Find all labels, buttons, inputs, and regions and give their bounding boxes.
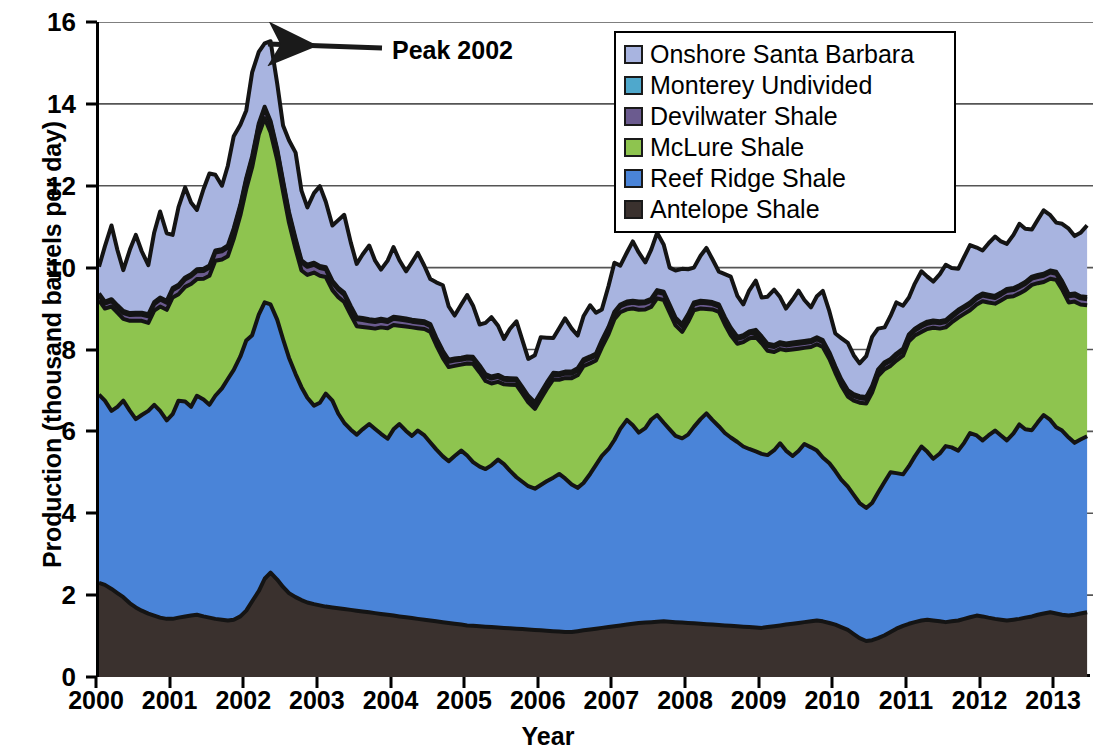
- x-tick-label: 2009: [731, 686, 787, 715]
- x-tick-label: 2002: [215, 686, 271, 715]
- y-tick-label: 4: [14, 498, 76, 529]
- legend-item[interactable]: Monterey Undivided: [624, 70, 946, 101]
- y-tick-label: 10: [14, 252, 76, 283]
- x-tick-mark: [463, 677, 466, 688]
- x-tick-mark: [904, 677, 907, 688]
- y-tick-label: 0: [14, 662, 76, 693]
- y-tick-label: 14: [14, 88, 76, 119]
- x-tick-label: 2004: [363, 686, 419, 715]
- x-tick-mark: [757, 677, 760, 688]
- x-tick-mark: [978, 677, 981, 688]
- x-tick-label: 2008: [657, 686, 713, 715]
- legend-label: Reef Ridge Shale: [650, 166, 846, 191]
- x-tick-label: 2007: [584, 686, 640, 715]
- legend-label: Devilwater Shale: [650, 104, 838, 129]
- x-tick-mark: [1052, 677, 1055, 688]
- y-tick-label: 8: [14, 334, 76, 365]
- legend-item[interactable]: Reef Ridge Shale: [624, 163, 946, 194]
- legend-label: Onshore Santa Barbara: [650, 42, 914, 67]
- x-tick-mark: [95, 677, 98, 688]
- x-tick-label: 2013: [1025, 686, 1081, 715]
- legend-label: McLure Shale: [650, 135, 804, 160]
- y-tick-label: 16: [14, 7, 76, 38]
- legend-swatch-icon: [624, 200, 643, 219]
- x-tick-label: 2001: [142, 686, 198, 715]
- x-tick-label: 2006: [510, 686, 566, 715]
- x-tick-label: 2010: [804, 686, 860, 715]
- peak-annotation-label: Peak 2002: [392, 36, 513, 65]
- x-tick-mark: [536, 677, 539, 688]
- legend-swatch-icon: [624, 138, 643, 157]
- x-tick-mark: [831, 677, 834, 688]
- legend-swatch-icon: [624, 76, 643, 95]
- x-tick-mark: [389, 677, 392, 688]
- legend-label: Antelope Shale: [650, 197, 820, 222]
- x-axis-title: Year: [0, 722, 1096, 751]
- x-tick-label: 2000: [68, 686, 124, 715]
- legend-swatch-icon: [624, 169, 643, 188]
- legend-item[interactable]: Antelope Shale: [624, 194, 946, 225]
- x-tick-label: 2012: [952, 686, 1008, 715]
- x-tick-mark: [610, 677, 613, 688]
- legend-item[interactable]: McLure Shale: [624, 132, 946, 163]
- legend-swatch-icon: [624, 45, 643, 64]
- y-tick-label: 6: [14, 416, 76, 447]
- chart-root: Production (thousand barrels per day) 02…: [0, 0, 1096, 755]
- x-tick-label: 2003: [289, 686, 345, 715]
- legend-item[interactable]: Devilwater Shale: [624, 101, 946, 132]
- y-tick-label: 2: [14, 580, 76, 611]
- x-tick-mark: [684, 677, 687, 688]
- legend-label: Monterey Undivided: [650, 73, 872, 98]
- x-tick-mark: [168, 677, 171, 688]
- x-tick-mark: [242, 677, 245, 688]
- x-tick-label: 2011: [879, 686, 933, 715]
- y-tick-label: 12: [14, 170, 76, 201]
- chart-legend: Onshore Santa BarbaraMonterey UndividedD…: [614, 31, 956, 233]
- legend-item[interactable]: Onshore Santa Barbara: [624, 39, 946, 70]
- legend-swatch-icon: [624, 107, 643, 126]
- x-tick-mark: [315, 677, 318, 688]
- x-tick-label: 2005: [436, 686, 492, 715]
